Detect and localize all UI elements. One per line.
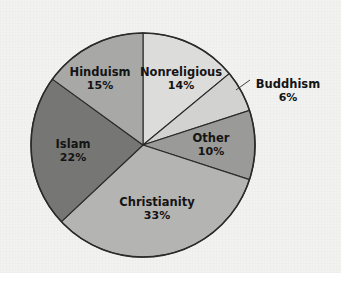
slice-name-buddhism: Buddhism xyxy=(256,77,320,91)
slice-name-other: Other xyxy=(193,131,230,145)
slice-percent-hinduism: 15% xyxy=(87,79,113,92)
slice-name-hinduism: Hinduism xyxy=(70,65,131,79)
slice-percent-other: 10% xyxy=(198,145,224,158)
slice-percent-islam: 22% xyxy=(60,151,86,164)
pie-chart-svg: Nonreligious14%Buddhism6%Other10%Christi… xyxy=(0,0,341,294)
pie-chart-figure: Nonreligious14%Buddhism6%Other10%Christi… xyxy=(0,0,341,294)
slice-name-nonreligious: Nonreligious xyxy=(140,65,222,79)
slice-percent-christianity: 33% xyxy=(144,209,170,222)
slice-percent-nonreligious: 14% xyxy=(168,79,194,92)
slice-name-christianity: Christianity xyxy=(119,195,195,209)
slice-percent-buddhism: 6% xyxy=(279,91,298,104)
slice-name-islam: Islam xyxy=(56,137,91,151)
